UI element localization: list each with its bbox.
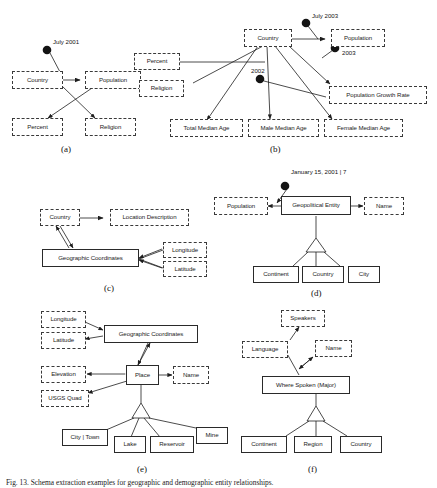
node-label: Female Median Age: [337, 125, 390, 131]
node-location-description[interactable]: Location Description: [110, 209, 189, 226]
node-continent[interactable]: Continent: [241, 436, 287, 453]
annotation-year-2003: 2003: [342, 49, 356, 56]
node-geopolitical-entity[interactable]: Geopolitical Entity: [281, 196, 351, 215]
node-geographic-coordinates[interactable]: Geographic Coordinates: [104, 325, 198, 343]
node-country[interactable]: Country: [302, 266, 344, 283]
node-lake[interactable]: Lake: [114, 436, 146, 453]
node-label: Population: [227, 203, 255, 209]
node-label: Language: [252, 346, 279, 352]
node-country[interactable]: Country: [340, 436, 382, 453]
node-country[interactable]: Country: [12, 71, 63, 89]
node-percent[interactable]: Percent: [134, 53, 180, 70]
node-label: Geographic Coordinates: [58, 255, 123, 261]
node-latitude[interactable]: Latitude: [163, 261, 207, 277]
node-label: Country: [258, 35, 279, 41]
node-where-spoken-major[interactable]: Where Spoken (Major): [262, 376, 350, 394]
schema-diagram-figure: Country Population Percent Religion July…: [0, 0, 437, 488]
node-place[interactable]: Place: [126, 365, 159, 385]
node-label: Percent: [147, 58, 168, 64]
node-label: Population: [344, 35, 372, 41]
node-population[interactable]: Population: [85, 71, 141, 89]
node-label: Male Median Age: [260, 125, 306, 131]
node-label: Location Description: [123, 214, 177, 220]
node-reservoir[interactable]: Reservoir: [150, 436, 194, 453]
node-female-median-age[interactable]: Female Median Age: [324, 119, 403, 137]
node-label: Country: [351, 441, 372, 447]
node-label: Percent: [27, 124, 48, 130]
node-label: Name: [376, 203, 392, 209]
node-label: Lake: [124, 441, 137, 447]
node-label: Name: [183, 372, 199, 378]
annotation-january-15-2001: January 15, 2001 | 7: [291, 168, 346, 175]
node-male-median-age[interactable]: Male Median Age: [248, 119, 319, 137]
panel-label-f: (f): [308, 464, 317, 474]
node-percent[interactable]: Percent: [12, 118, 63, 136]
node-label: Country: [50, 214, 71, 220]
panel-label-b: (b): [270, 144, 281, 154]
node-label: USGS Quad: [48, 395, 81, 401]
node-elevation[interactable]: Elevation: [41, 366, 86, 383]
node-label: Latitude: [53, 337, 74, 343]
node-label: Mine: [206, 432, 219, 438]
node-longitude[interactable]: Longitude: [41, 311, 86, 328]
annotation-year-2002: 2002: [251, 67, 265, 74]
node-religion[interactable]: Religion: [139, 80, 184, 97]
node-speakers[interactable]: Speakers: [281, 310, 325, 327]
node-population[interactable]: Population: [214, 197, 268, 215]
node-label: Country: [313, 271, 334, 277]
node-label: Region: [304, 441, 323, 447]
node-label: City: [359, 271, 369, 277]
node-label: Longitude: [50, 316, 76, 322]
panel-label-a: (a): [61, 144, 71, 154]
panel-label-c: (c): [104, 283, 114, 293]
node-label: Speakers: [290, 315, 315, 321]
node-label: Latitude: [174, 266, 195, 272]
node-label: City | Town: [71, 434, 100, 440]
node-label: Where Spoken (Major): [276, 382, 336, 388]
node-latitude[interactable]: Latitude: [41, 332, 86, 349]
node-label: Population Growth Rate: [346, 92, 409, 98]
node-label: Continent: [251, 441, 277, 447]
node-label: Total Median Age: [184, 125, 230, 131]
annotation-july-2001: July 2001: [53, 38, 79, 45]
node-label: Reservoir: [159, 441, 185, 447]
node-continent[interactable]: Continent: [253, 266, 299, 283]
node-region[interactable]: Region: [294, 436, 332, 453]
node-city-town[interactable]: City | Town: [62, 429, 108, 446]
node-label: Population: [99, 77, 127, 83]
panel-label-d: (d): [311, 288, 322, 298]
node-label: Religion: [151, 85, 173, 91]
node-label: Geographic Coordinates: [119, 331, 184, 337]
node-label: Name: [325, 345, 341, 351]
node-name[interactable]: Name: [315, 340, 352, 357]
node-label: Longitude: [172, 247, 198, 253]
node-population[interactable]: Population: [331, 29, 385, 47]
node-label: Country: [27, 77, 48, 83]
node-total-median-age[interactable]: Total Median Age: [170, 119, 243, 137]
node-longitude[interactable]: Longitude: [163, 242, 207, 258]
node-label: Geopolitical Entity: [292, 202, 340, 208]
node-label: Religion: [100, 124, 122, 130]
figure-caption: Fig. 13. Schema extraction examples for …: [6, 478, 431, 488]
node-label: Elevation: [51, 371, 76, 377]
node-label: Continent: [263, 271, 289, 277]
diagram-edges-layer: [0, 0, 437, 488]
annotation-july-2003: July 2003: [312, 12, 338, 19]
node-country[interactable]: Country: [40, 209, 80, 226]
node-usgs-quad[interactable]: USGS Quad: [41, 390, 89, 407]
node-city[interactable]: City: [348, 266, 380, 283]
node-mine[interactable]: Mine: [196, 427, 228, 444]
node-label: Place: [135, 372, 150, 378]
node-geographic-coordinates[interactable]: Geographic Coordinates: [42, 249, 139, 267]
node-name[interactable]: Name: [364, 197, 404, 215]
node-religion[interactable]: Religion: [85, 118, 136, 136]
node-name[interactable]: Name: [173, 366, 209, 384]
panel-d-edges: [268, 182, 363, 266]
panel-label-e: (e): [137, 464, 147, 474]
node-country[interactable]: Country: [244, 29, 292, 47]
node-language[interactable]: Language: [242, 341, 288, 358]
node-population-growth-rate[interactable]: Population Growth Rate: [329, 86, 427, 104]
